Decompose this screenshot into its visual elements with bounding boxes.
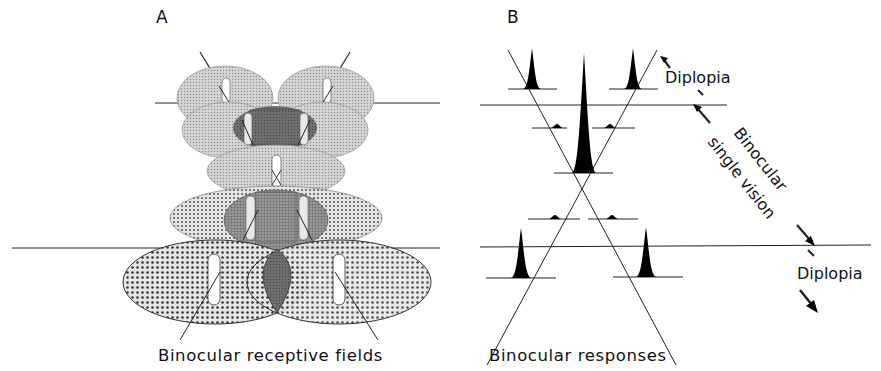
- bottom-receptive-fields: [123, 240, 431, 340]
- bump-lower-right: [606, 215, 618, 219]
- panel-b-letter: B: [507, 7, 519, 27]
- bump-lower-left: [549, 215, 561, 219]
- panel-a: A: [12, 7, 440, 365]
- annotations: Diplopia Binocular single vision Diplopi…: [660, 56, 863, 313]
- panel-b-caption: Binocular responses: [489, 346, 667, 365]
- binocular-diagram: A: [0, 0, 881, 371]
- bump-upper-left: [551, 124, 563, 128]
- peak-center-fixation: [572, 53, 596, 173]
- panel-b: B Diplo: [480, 7, 871, 365]
- response-peaks: [511, 48, 656, 278]
- diplopia-upper-label: Diplopia: [665, 68, 731, 87]
- peak-bottom-right: [636, 227, 656, 277]
- near-plane-line: [480, 245, 871, 247]
- axis-line-right-eye: [487, 50, 657, 365]
- bump-upper-right: [604, 124, 616, 128]
- peak-bottom-left: [511, 228, 531, 278]
- diplopia-lower-label: Diplopia: [797, 264, 863, 283]
- panel-a-caption: Binocular receptive fields: [158, 346, 383, 365]
- panel-a-letter: A: [156, 7, 168, 27]
- axis-line-left-eye: [508, 50, 676, 365]
